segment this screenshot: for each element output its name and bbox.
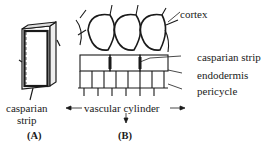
panel-label-a: (A) bbox=[27, 130, 42, 142]
label-endodermis: endodermis bbox=[197, 69, 248, 81]
label-pericycle: pericycle bbox=[197, 85, 237, 97]
label-cortex: cortex bbox=[180, 8, 207, 20]
label-vascular-cylinder: vascular cylinder bbox=[84, 102, 159, 114]
label-casparian-strip-a2: strip bbox=[17, 114, 37, 126]
panel-label-b: (B) bbox=[118, 130, 132, 142]
endodermal-cell-drawing bbox=[19, 22, 60, 100]
tissue-section-drawing bbox=[76, 5, 182, 96]
label-casparian-strip-a1: casparian bbox=[6, 102, 48, 114]
label-casparian-strip-b: casparian strip bbox=[197, 51, 261, 63]
